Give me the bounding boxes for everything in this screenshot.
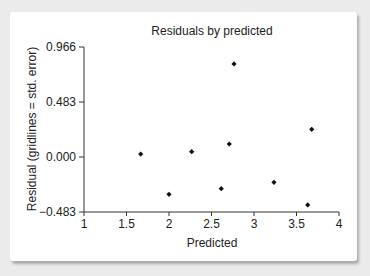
y-tick-label: 0.966 [46, 40, 76, 54]
chart-title: Residuals by predicted [151, 24, 272, 38]
y-tick-label: 0.483 [46, 95, 76, 109]
x-tick-label: 1 [81, 217, 88, 231]
data-point [231, 61, 236, 66]
x-tick-label: 4 [336, 217, 343, 231]
x-ticks: 11.522.533.54 [81, 212, 343, 231]
x-axis-label: Predicted [187, 236, 238, 250]
x-tick-label: 2 [166, 217, 173, 231]
data-point [189, 149, 194, 154]
data-point [219, 186, 224, 191]
data-point [305, 202, 310, 207]
x-tick-label: 2.5 [203, 217, 220, 231]
data-point [227, 141, 232, 146]
data-point [166, 192, 171, 197]
scatter-chart: Residuals by predicted Residual (gridlin… [0, 0, 370, 276]
x-tick-label: 3.5 [288, 217, 305, 231]
data-point [309, 127, 314, 132]
y-tick-label: 0.000 [46, 150, 76, 164]
data-point [138, 151, 143, 156]
x-tick-label: 1.5 [118, 217, 135, 231]
data-points [138, 61, 314, 207]
data-point [271, 180, 276, 185]
y-ticks: −0.4830.0000.4830.966 [39, 40, 84, 219]
y-tick-label: −0.483 [39, 205, 76, 219]
x-tick-label: 3 [251, 217, 258, 231]
y-axis-label: Residual (gridlines = std. error) [25, 47, 39, 211]
